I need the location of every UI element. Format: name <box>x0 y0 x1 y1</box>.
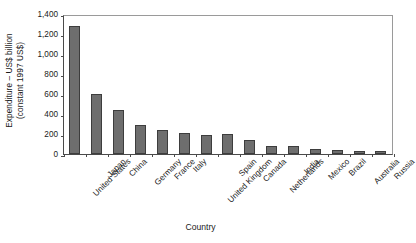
y-axis-tick-mark <box>61 76 64 77</box>
y-axis-tick-mark <box>61 16 64 17</box>
y-axis-title-line-1: Expenditure – US$ billion <box>5 33 16 127</box>
y-axis-tick-label: 0 <box>53 151 58 159</box>
y-axis-tick-label: 1,200 <box>38 31 59 39</box>
bar[interactable] <box>179 133 190 155</box>
bar-slot <box>239 16 261 154</box>
bar-slot <box>108 16 130 154</box>
bar-series <box>64 16 392 154</box>
bar[interactable] <box>354 151 365 154</box>
bar[interactable] <box>113 110 124 154</box>
y-axis-tick-label: 800 <box>44 71 58 79</box>
bar-slot <box>348 16 370 154</box>
bar-slot <box>261 16 283 154</box>
bar-slot <box>283 16 305 154</box>
bar-slot <box>86 16 108 154</box>
bar-slot <box>195 16 217 154</box>
plot-area <box>63 15 393 155</box>
bar[interactable] <box>91 94 102 154</box>
bar[interactable] <box>332 150 343 155</box>
bar[interactable] <box>266 146 277 154</box>
y-axis-tick-mark <box>61 136 64 137</box>
bar[interactable] <box>222 134 233 154</box>
y-axis-tick-label: 1,000 <box>38 51 59 59</box>
y-axis-title-line-2: (constant 1997 US$) <box>15 33 26 127</box>
bar[interactable] <box>310 149 321 155</box>
bar-slot <box>130 16 152 154</box>
x-axis-tick-label: Brazil <box>347 157 368 178</box>
bar-slot <box>304 16 326 154</box>
bar[interactable] <box>288 146 299 155</box>
y-axis-tick-label: 600 <box>44 91 58 99</box>
y-axis-tick-mark <box>61 56 64 57</box>
x-axis-tick-labels: United StatesJapanChinaGermanyFranceItal… <box>63 157 393 217</box>
y-axis-tick-mark <box>61 116 64 117</box>
bar-slot <box>217 16 239 154</box>
y-axis-tick-labels: 02004006008001,0001,2001,400 <box>26 10 62 158</box>
y-axis-tick-label: 1,400 <box>38 11 59 19</box>
bar[interactable] <box>244 140 255 154</box>
y-axis-tick-mark <box>61 96 64 97</box>
y-axis-tick-label: 200 <box>44 131 58 139</box>
y-axis-tick-label: 400 <box>44 111 58 119</box>
bar-slot <box>64 16 86 154</box>
x-axis-title: Country <box>0 222 401 232</box>
bar-slot <box>370 16 392 154</box>
bar[interactable] <box>69 26 80 154</box>
y-axis-tick-mark <box>61 36 64 37</box>
bar[interactable] <box>157 130 168 154</box>
bar[interactable] <box>375 151 386 154</box>
bar-slot <box>151 16 173 154</box>
bar-slot <box>326 16 348 154</box>
bar[interactable] <box>201 135 212 155</box>
bar-slot <box>173 16 195 154</box>
bar[interactable] <box>135 125 146 154</box>
